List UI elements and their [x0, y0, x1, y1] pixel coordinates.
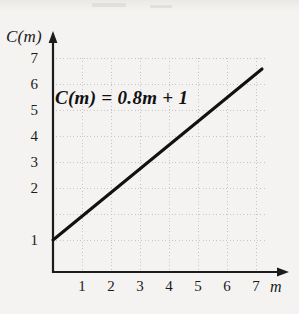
x-tick-label-3: 3 [132, 278, 148, 295]
x-tick-label-5: 5 [190, 278, 206, 295]
x-tick-label-1: 1 [74, 278, 90, 295]
x-axis-title: m [270, 278, 282, 296]
y-tick-label-5: 5 [22, 102, 38, 119]
y-tick-label-7: 7 [22, 50, 38, 67]
y-tick-label-4: 4 [22, 128, 38, 145]
y-tick-label-3: 3 [22, 154, 38, 171]
chart-figure: C(m) m 7 6 5 4 3 2 1 1 2 3 4 5 6 7 C(m) … [0, 0, 299, 314]
y-tick-label-1: 1 [22, 232, 38, 249]
x-tick-label-4: 4 [161, 278, 177, 295]
x-tick-label-7: 7 [248, 278, 264, 295]
plot-area [0, 0, 299, 314]
x-axis [52, 268, 289, 277]
y-axis-title: C(m) [6, 27, 42, 47]
y-tick-label-2: 2 [22, 180, 38, 197]
y-tick-label-6: 6 [22, 76, 38, 93]
x-tick-label-6: 6 [219, 278, 235, 295]
x-tick-label-2: 2 [103, 278, 119, 295]
equation-annotation: C(m) = 0.8m + 1 [55, 87, 188, 109]
